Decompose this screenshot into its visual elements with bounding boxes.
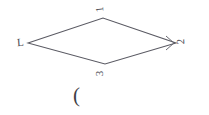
caption-parenthesis: ( [73, 85, 80, 106]
vertex-label-right: 2 [175, 39, 186, 45]
rhombus-shape [28, 18, 176, 64]
vertex-label-bottom: 3 [94, 71, 105, 77]
vertex-label-left: L [17, 37, 24, 48]
rhombus-figure [0, 0, 209, 115]
vertex-label-top: 1 [94, 6, 106, 13]
diagram-canvas: 1 2 3 L ( [0, 0, 209, 115]
right-angle-marker-icon [166, 36, 174, 50]
